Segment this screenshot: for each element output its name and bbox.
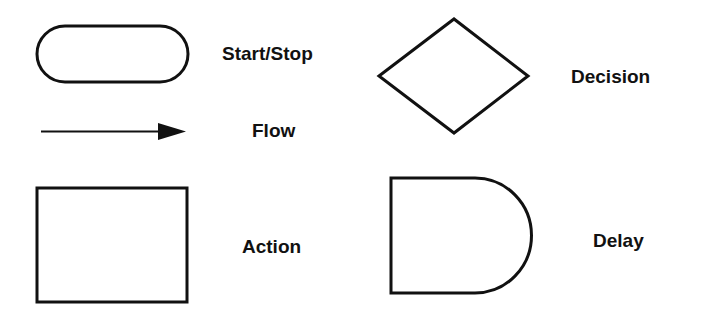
start-stop-shape (37, 26, 188, 82)
start-stop-label: Start/Stop (222, 44, 313, 63)
flowchart-legend-canvas (0, 0, 702, 325)
decision-shape (379, 19, 528, 133)
flow-arrow-shape (41, 123, 186, 140)
flow-label: Flow (252, 121, 295, 140)
action-label: Action (242, 237, 301, 256)
action-shape (37, 188, 187, 302)
delay-shape (391, 178, 531, 293)
delay-label: Delay (593, 231, 644, 250)
decision-label: Decision (571, 67, 650, 86)
